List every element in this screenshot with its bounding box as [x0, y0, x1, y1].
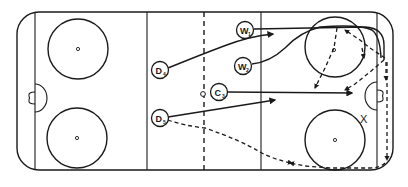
right-goal-crease — [365, 82, 377, 110]
w2-skating-path — [252, 26, 381, 64]
c3-skating-path — [228, 92, 352, 93]
rink-boards — [17, 12, 393, 170]
player-d5-number: 5 — [163, 119, 166, 125]
x-marker: X — [360, 113, 368, 125]
player-c3-number: 3 — [222, 93, 225, 99]
d5-pass-path — [168, 120, 292, 163]
player-w2-number: 2 — [246, 67, 249, 73]
player-d4[interactable]: D 4 — [152, 62, 169, 79]
hockey-rink-diagram: W 1 W 2 D 4 C 3 D 5 X — [0, 0, 408, 187]
center-faceoff-dot — [201, 92, 206, 97]
left-top-faceoff-dot — [76, 47, 79, 50]
pass-path-circle-diagonal — [315, 28, 337, 88]
player-c3[interactable]: C 3 — [211, 84, 228, 101]
player-d4-letter: D — [156, 66, 163, 76]
player-w2[interactable]: W 2 — [235, 58, 252, 75]
player-d5-letter: D — [156, 114, 163, 124]
pass-path-bottom-boards — [290, 163, 385, 168]
pass-path-boards-to-slot — [345, 60, 384, 90]
left-goal-crease — [35, 84, 47, 112]
left-goal-net — [29, 92, 35, 104]
player-c3-letter: C — [215, 88, 222, 98]
player-d4-number: 4 — [163, 71, 166, 77]
left-bottom-faceoff-dot — [75, 136, 78, 139]
player-w1-number: 1 — [248, 31, 251, 37]
player-d5[interactable]: D 5 — [152, 110, 169, 127]
right-goal-net — [377, 90, 383, 102]
right-bottom-faceoff-dot — [333, 138, 336, 141]
player-w1[interactable]: W 1 — [237, 22, 254, 39]
d5-skating-path — [168, 100, 275, 117]
